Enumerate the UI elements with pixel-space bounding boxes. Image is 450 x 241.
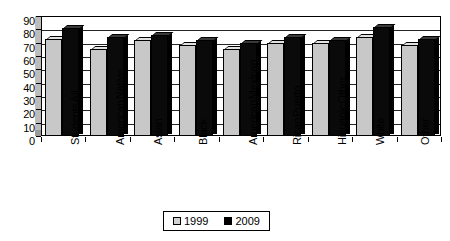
x-tick-mark	[130, 137, 131, 142]
bar-side-face	[168, 33, 172, 134]
y-axis-labels: 9080706050403020100	[8, 11, 35, 137]
y-tick-mark-30	[36, 96, 41, 97]
x-category-line: Students	[69, 103, 81, 145]
chart-legend: 1999 2009	[163, 211, 270, 231]
y-tick-mark-60	[36, 56, 41, 57]
x-tick-mark	[441, 137, 442, 142]
x-tick-mark	[397, 137, 398, 142]
x-category-label: NativeAmerican	[114, 69, 126, 145]
y-tick-mark-90	[36, 16, 41, 17]
y-tick-label-80: 80	[23, 29, 35, 40]
y-tick-label-40: 40	[23, 83, 35, 94]
x-category-line: Black	[197, 119, 209, 145]
bar-side-face	[213, 38, 217, 134]
x-category-line: Other	[336, 77, 348, 104]
x-category-label: AllStudents	[69, 91, 81, 145]
x-category-line: Other	[419, 118, 431, 145]
y-tick-label-60: 60	[23, 56, 35, 67]
bar-1999-all-students	[45, 39, 62, 136]
x-category-line: Rican	[291, 118, 303, 145]
bar-chart: 9080706050403020100 AllStudentsNativeAme…	[0, 0, 450, 241]
x-tick-mark	[308, 137, 309, 142]
bar-1999-asian	[134, 40, 151, 136]
bar-front-face	[401, 45, 418, 136]
bar-front-face	[90, 49, 107, 136]
bar-front-face	[312, 43, 329, 136]
x-category-line: American	[247, 100, 259, 145]
x-axis-labels: AllStudentsNativeAmericanAsianBlackMexic…	[41, 137, 441, 207]
y-tick-mark-50	[36, 69, 41, 70]
x-category-line: Hispanic	[336, 104, 348, 145]
legend-item-1999: 1999	[173, 215, 208, 227]
x-category-label: Asian	[152, 118, 164, 145]
bar-1999-mexican-american	[223, 49, 240, 136]
x-category-label: White	[374, 118, 386, 145]
y-tick-label-70: 70	[23, 43, 35, 54]
x-tick-mark	[174, 137, 175, 142]
x-category-label: PuertoRican	[291, 86, 303, 145]
bar-1999-puerto-rican	[267, 43, 284, 136]
bar-front-face	[267, 43, 284, 136]
x-category-label: OtherHispanic	[336, 77, 348, 145]
bar-side-face	[435, 37, 439, 134]
bar-1999-other	[401, 45, 418, 136]
legend-swatch-1999-icon	[173, 217, 181, 225]
y-tick-label-50: 50	[23, 69, 35, 80]
bar-front-face	[179, 45, 196, 136]
x-category-label: Black	[197, 119, 209, 145]
y-tick-mark-10	[36, 123, 41, 124]
bar-1999-native-american	[90, 49, 107, 136]
bar-front-face	[45, 39, 62, 136]
y-tick-mark-70	[36, 43, 41, 44]
x-category-line: Mexican	[247, 60, 259, 100]
bar-front-face	[134, 40, 151, 136]
y-tick-label-0: 0	[29, 136, 35, 147]
x-category-line: American	[114, 100, 126, 145]
x-category-label: Other	[419, 118, 431, 145]
bar-1999-white	[356, 37, 373, 136]
legend-label-1999: 1999	[184, 215, 208, 227]
y-tick-mark-80	[36, 29, 41, 30]
x-category-line: Puerto	[291, 86, 303, 117]
bar-group	[174, 16, 218, 136]
x-category-label: MexicanAmerican	[247, 60, 259, 145]
x-category-line: Asian	[152, 118, 164, 145]
bar-1999-black	[179, 45, 196, 136]
x-tick-mark	[219, 137, 220, 142]
legend-label-2009: 2009	[235, 215, 259, 227]
y-tick-label-30: 30	[23, 96, 35, 107]
x-category-line: All	[69, 91, 81, 103]
x-tick-mark	[85, 137, 86, 142]
y-tick-label-90: 90	[23, 16, 35, 27]
x-tick-mark	[352, 137, 353, 142]
plot-area: 9080706050403020100 AllStudentsNativeAme…	[0, 0, 450, 145]
x-tick-mark	[41, 137, 42, 142]
x-tick-mark	[263, 137, 264, 142]
x-category-line: Native	[114, 69, 126, 99]
y-tick-label-20: 20	[23, 109, 35, 120]
bar-front-face	[356, 37, 373, 136]
y-tick-mark-20	[36, 109, 41, 110]
y-tick-label-10: 10	[23, 123, 35, 134]
bar-1999-other-hispanic	[312, 43, 329, 136]
y-tick-mark-40	[36, 83, 41, 84]
x-category-line: White	[374, 118, 386, 145]
legend-swatch-2009-icon	[224, 217, 232, 225]
bar-side-face	[390, 25, 394, 134]
legend-item-2009: 2009	[224, 215, 259, 227]
bar-front-face	[223, 49, 240, 136]
